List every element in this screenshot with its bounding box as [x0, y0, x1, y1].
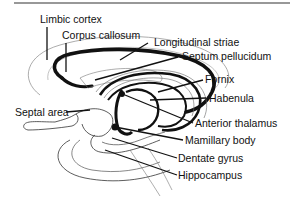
label-habenula: Habenula	[209, 93, 254, 104]
septal-area-shape	[76, 109, 113, 137]
label-mamillary-body: Mamillary body	[185, 135, 256, 146]
leader-habenula	[150, 98, 206, 100]
label-anterior-thalamus: Anterior thalamus	[195, 118, 277, 129]
label-limbic-cortex: Limbic cortex	[40, 14, 102, 25]
thalamus-loop	[126, 90, 158, 130]
leader-septal-area	[66, 110, 90, 112]
leader-septum-pellucidum	[95, 57, 178, 80]
label-dentate-gyrus: Dentate gyrus	[178, 153, 243, 164]
label-fornix: Fornix	[205, 74, 234, 85]
corpus-callosum-genu	[62, 78, 92, 87]
habenula-dot	[119, 91, 125, 97]
label-hippocampus: Hippocampus	[178, 170, 242, 181]
limbic-system-diagram: Limbic cortex Corpus callosum Longitudin…	[0, 0, 291, 203]
label-septal-area: Septal area	[15, 107, 69, 118]
label-longitudinal-striae: Longitudinal striae	[154, 37, 239, 48]
temporal-outline-outer	[58, 140, 170, 181]
label-septum-pellucidum: Septum pellucidum	[182, 51, 271, 62]
dentate-gyrus-shape	[102, 132, 165, 145]
leader-dentate-gyrus	[112, 138, 177, 158]
label-corpus-callosum: Corpus callosum	[62, 30, 140, 41]
